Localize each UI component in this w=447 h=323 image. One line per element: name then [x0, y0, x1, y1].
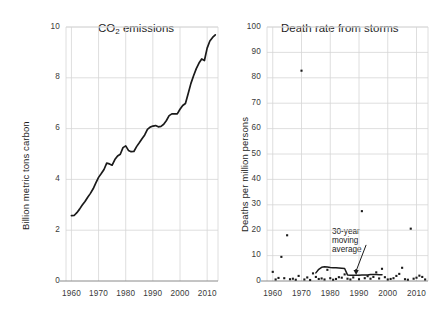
data-point — [344, 273, 346, 275]
data-line-moving-average — [316, 267, 382, 275]
data-point — [329, 277, 331, 279]
data-point — [401, 267, 403, 269]
data-point — [323, 278, 325, 280]
data-point — [358, 278, 360, 280]
data-point — [280, 256, 282, 258]
data-point — [275, 278, 277, 280]
y-axis-tick-label: 20 — [241, 225, 261, 234]
data-point — [303, 278, 305, 280]
annotation-leader-line — [356, 245, 366, 271]
data-point — [413, 278, 415, 280]
data-point — [318, 278, 320, 280]
data-point — [384, 276, 386, 278]
annotation-arrowhead — [354, 270, 359, 275]
data-point — [286, 234, 288, 236]
data-point — [395, 275, 397, 277]
data-point — [326, 269, 328, 271]
chart-co2-emissions: Billion metric tons carbon CO2 emissions… — [0, 0, 228, 323]
y-axis-tick-label: 4 — [44, 174, 60, 183]
data-point — [295, 279, 297, 281]
data-point — [298, 275, 300, 277]
data-point — [315, 276, 317, 278]
data-point — [346, 278, 348, 280]
y-axis-tick-label: 100 — [241, 22, 261, 31]
data-point — [361, 210, 363, 212]
chart-death-rate-storms: Deaths per million persons Death rate fr… — [219, 0, 447, 323]
data-point — [292, 278, 294, 280]
data-point — [349, 278, 351, 280]
data-point — [415, 277, 417, 279]
data-point — [375, 271, 377, 273]
data-point — [352, 276, 354, 278]
x-axis-tick-label: 2000 — [372, 289, 404, 298]
data-point — [387, 278, 389, 280]
data-point — [421, 276, 423, 278]
data-point — [369, 278, 371, 280]
x-axis-tick-label: 1990 — [343, 289, 375, 298]
data-point — [390, 278, 392, 280]
data-point — [338, 276, 340, 278]
y-axis-tick-label: 0 — [44, 276, 60, 285]
y-axis-tick-label: 30 — [241, 199, 261, 208]
y-axis-tick-label: 0 — [241, 276, 261, 285]
data-point — [410, 228, 412, 230]
data-point — [321, 277, 323, 279]
y-axis-tick-label: 80 — [241, 72, 261, 81]
data-point — [277, 277, 279, 279]
data-point — [312, 272, 314, 274]
x-axis-tick-label: 1980 — [314, 289, 346, 298]
data-point — [392, 277, 394, 279]
data-point — [306, 276, 308, 278]
y-axis-tick-label: 70 — [241, 98, 261, 107]
data-point — [381, 268, 383, 270]
data-line-co2 — [71, 35, 215, 216]
y-axis-tick-label: 10 — [44, 22, 60, 31]
y-axis-tick-label: 90 — [241, 47, 261, 56]
y-axis-tick-label: 8 — [44, 72, 60, 81]
y-axis-tick-label: 50 — [241, 149, 261, 158]
data-point — [300, 70, 302, 72]
y-axis-tick-label: 6 — [44, 123, 60, 132]
y-axis-tick-label: 40 — [241, 174, 261, 183]
data-point — [332, 279, 334, 281]
x-axis-tick-label: 2010 — [401, 289, 433, 298]
data-point — [418, 275, 420, 277]
data-point — [404, 278, 406, 280]
figure-root: Billion metric tons carbon CO2 emissions… — [0, 0, 447, 323]
data-point — [398, 273, 400, 275]
data-point — [372, 276, 374, 278]
data-point — [289, 278, 291, 280]
x-axis-tick-label: 1960 — [257, 289, 289, 298]
data-point — [335, 278, 337, 280]
y-axis-tick-label: 2 — [44, 225, 60, 234]
co2-plot-area — [0, 0, 228, 323]
y-axis-tick-label: 10 — [241, 250, 261, 259]
data-point — [309, 279, 311, 281]
x-axis-tick-label: 1970 — [286, 289, 318, 298]
data-point — [272, 271, 274, 273]
data-point — [378, 277, 380, 279]
data-point — [424, 278, 426, 280]
data-point — [283, 277, 285, 279]
data-point — [407, 279, 409, 281]
data-point — [364, 277, 366, 279]
data-point — [341, 277, 343, 279]
y-axis-tick-label: 60 — [241, 123, 261, 132]
